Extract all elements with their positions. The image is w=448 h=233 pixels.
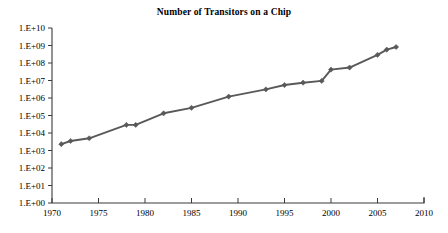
x-axis-tick-labels: 197019751980198519901995200020052010 xyxy=(43,208,434,218)
y-axis-tick-labels: 1.E+001.E+011.E+021.E+031.E+041.E+051.E+… xyxy=(19,23,46,208)
data-point-marker xyxy=(161,111,166,116)
data-point-marker xyxy=(394,44,399,49)
x-tick-label: 1970 xyxy=(43,208,62,218)
y-tick-label: 1.E+09 xyxy=(19,41,46,51)
y-tick-label: 1.E+05 xyxy=(19,111,46,121)
x-tick-label: 1985 xyxy=(183,208,202,218)
y-tick-label: 1.E+01 xyxy=(19,181,45,191)
data-point-marker xyxy=(87,136,92,141)
x-axis-tick-marks xyxy=(52,198,424,203)
y-tick-label: 1.E+03 xyxy=(19,146,46,156)
y-tick-label: 1.E+08 xyxy=(19,58,46,68)
data-point-marker xyxy=(68,138,73,143)
y-axis-tick-marks xyxy=(48,28,52,203)
y-tick-label: 1.E+10 xyxy=(19,23,46,33)
x-tick-label: 1990 xyxy=(229,208,248,218)
y-tick-label: 1.E+02 xyxy=(19,163,45,173)
y-tick-label: 1.E+00 xyxy=(19,198,46,208)
x-tick-label: 2005 xyxy=(369,208,388,218)
y-tick-label: 1.E+04 xyxy=(19,128,46,138)
data-point-marker xyxy=(301,80,306,85)
data-point-marker xyxy=(124,122,129,127)
data-point-marker xyxy=(189,105,194,110)
data-point-marker xyxy=(282,82,287,87)
data-point-marker xyxy=(59,142,64,147)
x-tick-label: 1995 xyxy=(276,208,295,218)
x-tick-label: 1980 xyxy=(136,208,155,218)
chart-plot-area: 1.E+001.E+011.E+021.E+031.E+041.E+051.E+… xyxy=(0,0,448,233)
y-tick-label: 1.E+06 xyxy=(19,93,46,103)
data-point-marker xyxy=(226,94,231,99)
y-tick-label: 1.E+07 xyxy=(19,76,46,86)
x-tick-label: 2010 xyxy=(415,208,434,218)
x-tick-label: 2000 xyxy=(322,208,341,218)
data-point-marker xyxy=(133,122,138,127)
chart-container: Number of Transitors on a Chip 1.E+001.E… xyxy=(0,0,448,233)
x-tick-label: 1975 xyxy=(90,208,109,218)
data-point-marker xyxy=(263,87,268,92)
